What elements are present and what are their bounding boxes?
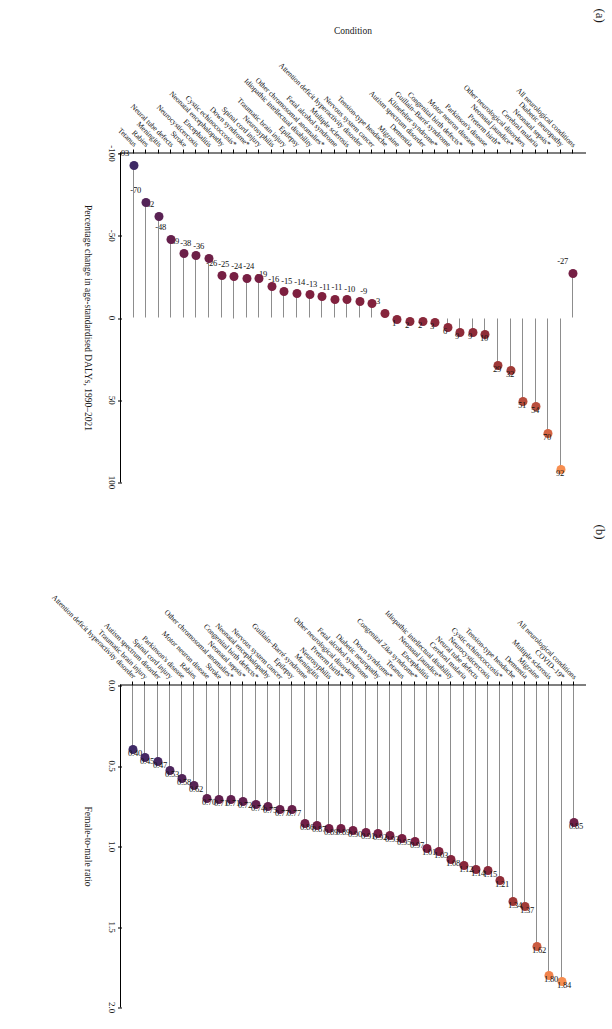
stem-line — [487, 685, 488, 870]
data-value-label: 9 — [468, 330, 472, 340]
data-value-label: 0.58 — [177, 776, 191, 786]
category-tick — [475, 681, 476, 685]
category-tick — [414, 681, 415, 685]
category-tick — [181, 681, 182, 685]
data-point — [204, 254, 213, 263]
category-tick — [169, 681, 170, 685]
stem-line — [535, 318, 536, 407]
category-tick — [346, 149, 347, 153]
data-value-label: -11 — [319, 281, 329, 291]
stem-line — [365, 685, 366, 832]
category-tick — [524, 681, 525, 685]
category-tick — [321, 149, 322, 153]
data-point — [267, 282, 276, 291]
data-value-label: 92 — [556, 467, 564, 477]
category-tick — [560, 149, 561, 153]
data-value-label: -38 — [181, 237, 192, 247]
stem-line — [230, 685, 231, 799]
category-tick — [255, 681, 256, 685]
data-value-label: 1.80 — [544, 973, 558, 983]
data-point — [343, 295, 352, 304]
stem-line — [304, 685, 305, 823]
category-tick — [206, 681, 207, 685]
category-tick — [157, 681, 158, 685]
data-value-label: 2 — [405, 319, 409, 329]
category-tick — [296, 149, 297, 153]
data-point — [154, 211, 163, 220]
x-axis-tick-label: 0.0 — [107, 679, 117, 690]
panel-b-series: 0.851.841.801.621.371.341.211.151.141.12… — [121, 685, 586, 1007]
data-value-label: 54 — [531, 404, 539, 414]
data-value-label: 0.92 — [373, 831, 387, 841]
data-value-label: 3 — [430, 320, 434, 330]
x-axis-tick-label: 2.0 — [107, 1001, 117, 1012]
category-tick — [401, 681, 402, 685]
stem-line — [573, 685, 574, 822]
category-tick — [463, 681, 464, 685]
stem-line — [193, 685, 194, 785]
x-axis-tick-label: -100 — [107, 145, 117, 162]
category-tick — [340, 681, 341, 685]
data-value-label: 32 — [506, 368, 514, 378]
data-value-label: -36 — [193, 240, 204, 250]
data-point — [167, 234, 176, 243]
stem-line — [132, 685, 133, 749]
x-axis-tick — [118, 846, 122, 847]
category-tick — [438, 681, 439, 685]
category-tick — [158, 149, 159, 153]
data-value-label: 0.53 — [165, 768, 179, 778]
data-value-label: -93 — [118, 147, 129, 157]
x-axis-tick-label: 0 — [107, 315, 117, 320]
stem-line — [560, 318, 561, 469]
data-point — [305, 290, 314, 299]
stem-line — [548, 685, 549, 975]
data-value-label: 1 — [393, 317, 397, 327]
stem-line — [144, 685, 145, 757]
stem-line — [328, 685, 329, 828]
stem-line — [246, 278, 247, 317]
stem-line — [438, 685, 439, 851]
panel-b-x-axis-title: Female-to-male ratio — [83, 685, 93, 1007]
x-axis-tick-label: 1.0 — [107, 840, 117, 851]
category-tick — [145, 149, 146, 153]
stem-line — [206, 685, 207, 798]
data-value-label: 0.95 — [397, 836, 411, 846]
data-value-label: 29 — [493, 363, 501, 373]
stem-line — [353, 685, 354, 830]
data-value-label: 0.91 — [361, 830, 375, 840]
stem-line — [389, 685, 390, 835]
data-value-label: -24 — [244, 260, 255, 270]
stem-line — [158, 216, 159, 318]
data-value-label: 2 — [418, 319, 422, 329]
category-tick — [170, 149, 171, 153]
category-tick — [510, 149, 511, 153]
stem-line — [267, 685, 268, 806]
category-tick — [233, 149, 234, 153]
data-point — [318, 292, 327, 301]
category-tick — [547, 149, 548, 153]
data-point — [242, 274, 251, 283]
category-tick — [221, 149, 222, 153]
category-tick — [291, 681, 292, 685]
figure-canvas: (a) -27927054513229109963221-3-9-10-11-1… — [0, 0, 612, 1029]
stem-line — [536, 685, 537, 946]
stem-line — [242, 685, 243, 801]
panel-b-x-axis: 0.00.51.01.52.0 — [121, 685, 122, 1007]
category-tick — [561, 681, 562, 685]
data-value-label: 0.62 — [189, 783, 203, 793]
category-tick — [365, 681, 366, 685]
panel-b: (b) 0.851.841.801.621.371.341.211.151.14… — [0, 516, 612, 1029]
data-value-label: -9 — [361, 285, 368, 295]
stem-line — [133, 165, 134, 318]
category-tick — [267, 681, 268, 685]
category-tick — [447, 149, 448, 153]
data-value-label: -10 — [344, 283, 355, 293]
data-value-label: -15 — [281, 275, 292, 285]
stem-line — [157, 685, 158, 761]
data-value-label: 0.86 — [300, 821, 314, 831]
panel-a-plot-area: -27927054513229109963221-3-9-10-11-11-13… — [120, 152, 586, 482]
category-tick — [472, 149, 473, 153]
stem-line — [414, 685, 415, 841]
stem-line — [547, 318, 548, 433]
data-value-label: 51 — [518, 399, 526, 409]
